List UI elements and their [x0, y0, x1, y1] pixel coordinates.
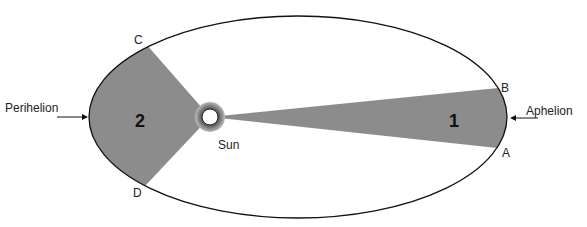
- point-c-label: C: [134, 33, 143, 47]
- point-b-label: B: [501, 81, 509, 95]
- area-2-label: 2: [135, 111, 145, 131]
- aphelion-label: Aphelion: [526, 104, 573, 118]
- sector-2: [40, 20, 210, 220]
- sun-icon: [195, 102, 225, 132]
- point-a-label: A: [502, 146, 510, 160]
- perihelion-label: Perihelion: [5, 101, 58, 115]
- point-d-label: D: [133, 186, 142, 200]
- sun-label: Sun: [218, 138, 239, 152]
- orbit-diagram: Perihelion Aphelion Sun C D B A 2 1: [0, 0, 587, 227]
- area-1-label: 1: [449, 111, 459, 131]
